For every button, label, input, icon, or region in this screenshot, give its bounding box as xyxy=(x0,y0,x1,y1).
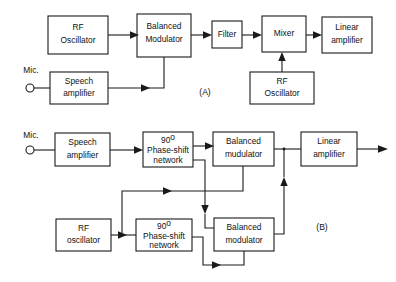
block-speech-amplifier-b: Speech amplifier xyxy=(55,133,110,166)
wire-speechamp-to-phaseshift-b xyxy=(110,146,143,153)
deg-value: 90 xyxy=(161,135,171,145)
arrowhead xyxy=(134,146,143,153)
block-label-line1: Linear xyxy=(317,136,340,146)
block-label-line1: Balanced xyxy=(227,222,262,232)
block-label-line1: Speech xyxy=(65,76,94,86)
wire-rfoscbottom-to-mixer-a xyxy=(278,52,285,72)
block-label-line1: RF xyxy=(72,22,83,32)
block-label-line1: Balanced xyxy=(147,21,182,31)
block-label-line2: amplifier xyxy=(331,35,363,45)
wire-mixer-to-linamp-a xyxy=(306,31,322,38)
diagram-canvas: RF Oscillator Balanced Modulator Filter … xyxy=(0,0,396,282)
arrowhead xyxy=(201,205,208,214)
arrowhead xyxy=(141,84,150,91)
block-label-line3: network xyxy=(153,155,183,165)
wire-balmodtop-to-linamp-b xyxy=(274,148,301,151)
wire-speechamp-to-balmod-a xyxy=(108,57,164,92)
wire xyxy=(274,186,284,234)
arrowhead xyxy=(280,177,287,186)
arrowhead xyxy=(163,187,172,194)
block-balanced-modulator-top-b: Balanced mudulator xyxy=(213,132,274,166)
block-label-line3: network xyxy=(149,240,179,250)
wire-balmod-to-filter-a xyxy=(191,31,212,38)
block-phase-shift-top-b: 90o Phase-shift network xyxy=(143,132,193,167)
block-phase-shift-bottom-b: 90o Phase-shift network xyxy=(136,218,192,251)
block-rf-oscillator-top-a: RF Oscillator xyxy=(48,16,108,54)
mic-label: Mic. xyxy=(23,65,38,75)
microphone-symbol-b: Mic. xyxy=(23,130,55,154)
arrowhead xyxy=(313,31,322,38)
block-diagram-figure: RF Oscillator Balanced Modulator Filter … xyxy=(0,0,396,282)
block-rf-oscillator-bottom-a: RF Oscillator xyxy=(250,72,314,104)
wire-linamp-output-b xyxy=(357,145,388,152)
block-label-line2: amplifier xyxy=(67,150,99,160)
block-label-line2: Phase-shift xyxy=(147,145,190,155)
wire-segment-2 xyxy=(205,214,214,228)
block-label-line2: Oscillator xyxy=(61,35,96,45)
panel-label-a: (A) xyxy=(199,87,211,97)
block-label-line1: Balanced xyxy=(226,136,261,146)
block-speech-amplifier-a: Speech amplifier xyxy=(50,72,108,104)
wire-filter-to-mixer-a xyxy=(242,31,262,38)
wire xyxy=(193,160,205,205)
block-label-line2: Modulator xyxy=(145,34,182,44)
panel-b: Speech amplifier 90o Phase-shift network… xyxy=(23,130,388,268)
mic-circle-icon xyxy=(26,84,34,92)
arrowhead xyxy=(253,31,262,38)
block-balanced-modulator-a: Balanced Modulator xyxy=(137,14,191,57)
block-label-line1: Mixer xyxy=(274,28,295,38)
arrowhead xyxy=(212,261,221,268)
wire-phaseshift-to-balmodbottom-b xyxy=(193,160,214,228)
block-label-line1: Filter xyxy=(218,29,237,39)
mic-label: Mic. xyxy=(23,130,38,140)
block-label-line1: Linear xyxy=(335,22,358,32)
wire-phaseshift-to-balmodtop-b xyxy=(193,142,214,149)
block-label-line2: amplifier xyxy=(63,88,95,98)
block-label-line2: modulator xyxy=(225,235,262,245)
block-label-line1: RF xyxy=(276,76,287,86)
arrowhead xyxy=(278,52,285,61)
wire xyxy=(108,57,164,88)
panel-label-b: (B) xyxy=(316,222,328,232)
deg-superscript: o xyxy=(166,218,171,228)
block-rf-oscillator-b: RF oscillator xyxy=(56,219,111,251)
block-linear-amplifier-a: Linear amplifier xyxy=(322,17,372,53)
wire-rfosc-to-balmod-a xyxy=(108,31,139,38)
microphone-symbol-a: Mic. xyxy=(23,65,50,92)
block-linear-amplifier-b: Linear amplifier xyxy=(301,132,357,166)
arrowhead xyxy=(378,145,388,152)
block-label-line1: Speech xyxy=(68,137,97,147)
deg-superscript: o xyxy=(170,132,175,142)
arrowhead xyxy=(203,31,212,38)
wire-rfosc-to-phaseshiftbottom-b xyxy=(111,231,136,238)
panel-a: RF Oscillator Balanced Modulator Filter … xyxy=(23,14,372,104)
wire-balmodbottom-to-linamp-b xyxy=(274,149,288,234)
block-balanced-modulator-bottom-b: Balanced modulator xyxy=(214,218,274,251)
block-mixer-a: Mixer xyxy=(262,16,306,52)
block-filter-a: Filter xyxy=(212,21,242,48)
block-label-line2: mudulator xyxy=(225,149,262,159)
block-label-line2: oscillator xyxy=(67,235,100,245)
block-label-line2: Oscillator xyxy=(265,88,300,98)
block-label-line1: RF xyxy=(78,223,89,233)
mic-circle-icon xyxy=(26,146,34,154)
deg-value: 90 xyxy=(157,221,167,231)
block-label-line2: amplifier xyxy=(313,149,345,159)
